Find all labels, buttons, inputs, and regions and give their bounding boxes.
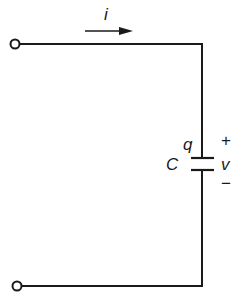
minus-sign: −	[221, 174, 231, 193]
capacitance-label: C	[166, 155, 179, 174]
plus-sign: +	[221, 131, 231, 150]
top-terminal	[11, 40, 20, 49]
circuit-diagram: i q C + v −	[0, 0, 248, 307]
current-arrow-head	[119, 27, 133, 35]
top-wire	[20, 44, 202, 158]
current-label: i	[104, 5, 109, 24]
bottom-terminal	[13, 282, 22, 291]
charge-label: q	[183, 135, 193, 154]
voltage-label: v	[221, 155, 231, 174]
bottom-wire	[22, 170, 202, 286]
